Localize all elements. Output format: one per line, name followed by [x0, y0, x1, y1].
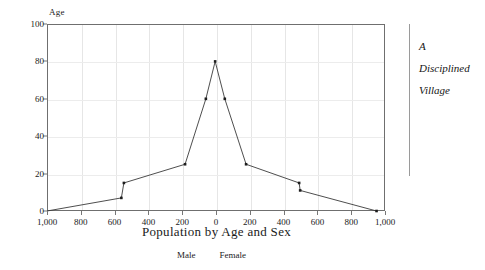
data-point-marker: [245, 163, 248, 166]
x-axis-title: Population by Age and Sex: [0, 224, 485, 240]
x-axis-tick-mark: [250, 211, 251, 215]
x-axis-tick-mark: [148, 211, 149, 215]
x-axis-tick-mark: [284, 211, 285, 215]
x-axis-title-text: Population by Age and Sex: [142, 224, 291, 240]
x-axis-tick-mark: [182, 211, 183, 215]
data-point-marker: [205, 98, 208, 101]
margin-annotation: A Disciplined Village: [409, 24, 479, 176]
y-axis-tick-group: 020406080100: [0, 24, 44, 211]
margin-annotation-line: Disciplined: [419, 57, 479, 79]
data-point-marker: [223, 98, 226, 101]
data-point-marker: [120, 197, 123, 200]
y-axis-tick-label: 80: [4, 56, 44, 66]
x-axis-tick-mark: [81, 211, 82, 215]
legend: MaleFemale: [0, 250, 485, 260]
x-axis-tick-mark: [317, 211, 318, 215]
y-axis-tick-label: 20: [4, 169, 44, 179]
data-series-layer: [47, 24, 385, 211]
data-point-marker: [298, 182, 301, 185]
y-axis-title: Age: [49, 7, 65, 17]
x-axis-tick-mark: [216, 211, 217, 215]
x-axis-tick-mark: [47, 211, 48, 215]
x-axis-tick-mark: [351, 211, 352, 215]
x-axis-tick-mark: [115, 211, 116, 215]
y-axis-tick-label: 100: [4, 19, 44, 29]
y-axis-tick-label: 0: [4, 206, 44, 216]
data-point-marker: [214, 60, 217, 63]
legend-item-male: Male: [177, 250, 196, 260]
legend-inner: MaleFemale: [177, 250, 246, 260]
population-pyramid-figure: Age 020406080100 1,000800600400200020040…: [0, 0, 485, 270]
y-axis-tick-label: 40: [4, 131, 44, 141]
data-point-marker: [299, 189, 302, 192]
y-axis-tick-label: 60: [4, 94, 44, 104]
legend-item-female: Female: [220, 250, 247, 260]
data-point-markers: [120, 60, 378, 212]
x-axis-tick-mark: [385, 211, 386, 215]
population-line: [47, 61, 377, 211]
data-point-marker: [184, 163, 187, 166]
margin-annotation-line: A: [419, 35, 479, 57]
margin-annotation-line: Village: [419, 79, 479, 101]
data-point-marker: [123, 182, 126, 185]
